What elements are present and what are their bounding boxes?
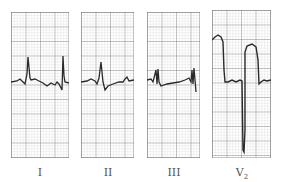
ecg-strip-lead-i — [11, 12, 69, 158]
ecg-panel-lead-iii — [147, 12, 200, 158]
lead-label-iii: III — [154, 166, 194, 179]
ecg-panel-lead-ii — [81, 12, 134, 158]
ecg-panel-lead-i — [11, 12, 69, 158]
ecg-panel-lead-v2 — [212, 10, 271, 158]
lead-label-ii: II — [88, 166, 128, 179]
lead-label-v2: V2 — [222, 166, 262, 181]
lead-name: V — [236, 166, 244, 179]
ecg-strip-lead-iii — [147, 12, 200, 158]
lead-name: I — [38, 166, 42, 179]
lead-label-i: I — [20, 166, 60, 179]
lead-name: III — [167, 166, 180, 179]
ecg-strip-lead-ii — [81, 12, 134, 158]
ecg-strip-lead-v2 — [212, 10, 271, 158]
lead-name: II — [104, 166, 113, 179]
lead-subscript: 2 — [244, 173, 248, 181]
